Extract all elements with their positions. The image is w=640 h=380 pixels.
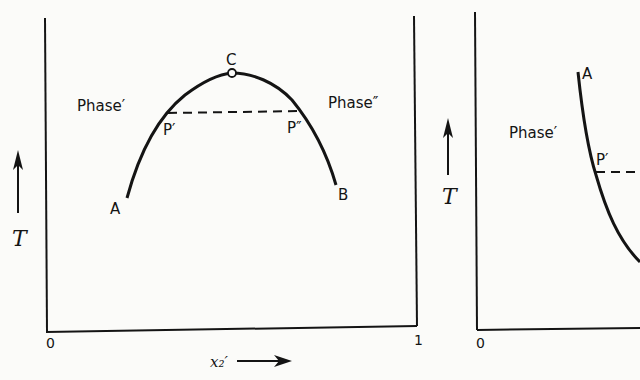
coexistence-curve [127, 73, 336, 198]
right-tie-left-label: P′ [596, 151, 609, 169]
x-arrow-icon [237, 355, 292, 367]
t-arrow-icon-right [443, 118, 453, 175]
left-x-tick-1: 1 [414, 332, 423, 348]
left-x-axis-label: x₂′ [210, 353, 228, 371]
tie-left-label: P′ [163, 121, 176, 139]
right-x-axis [477, 328, 640, 330]
right-y-axis [475, 12, 477, 330]
right-y-axis-label: T [442, 184, 459, 209]
left-y-axis-label: T [12, 226, 29, 251]
left-right-border [414, 16, 417, 326]
left-region-label: Phase′ [77, 97, 126, 115]
left-x-axis [46, 326, 417, 332]
coexistence-curve-right [578, 72, 640, 262]
left-x-tick-0: 0 [46, 335, 55, 351]
critical-point-label: C [226, 51, 236, 69]
left-panel: T 0 1 x₂′ C Phase′ Phase″ P′ P″ A B [12, 16, 423, 371]
critical-point-marker [228, 69, 236, 77]
right-panel: T 0 Phase′ A P′ [442, 12, 640, 351]
right-region-label: Phase″ [328, 94, 379, 112]
right-curve-start-label: A [582, 65, 593, 83]
tie-right-label: P″ [287, 119, 302, 137]
left-y-axis [45, 18, 47, 332]
right-x-tick-0: 0 [476, 335, 485, 351]
right-region-label-left: Phase′ [509, 124, 558, 142]
tie-line [168, 111, 302, 113]
curve-start-label: A [110, 200, 121, 218]
curve-end-label: B [338, 186, 348, 204]
t-arrow-icon [13, 150, 23, 213]
phase-diagram-figure: T 0 1 x₂′ C Phase′ Phase″ P′ P″ A B T [0, 0, 640, 380]
